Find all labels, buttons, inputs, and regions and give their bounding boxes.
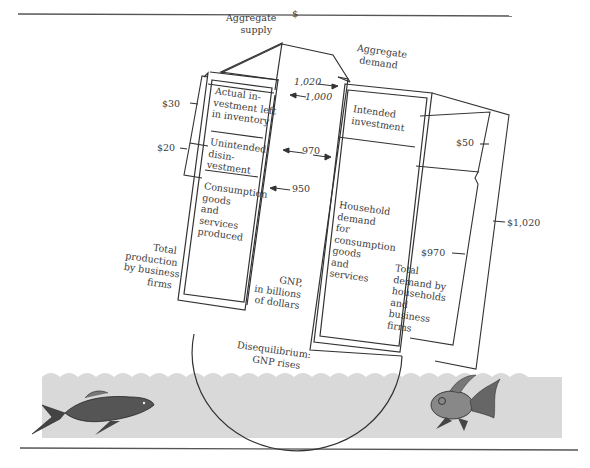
total-demand-label: Total demand by households and business … — [386, 262, 449, 338]
diagram-drawing — [0, 0, 590, 468]
gnp-disequilibrium-diagram: $ Aggregate supply Aggregate demand 1,02… — [0, 0, 590, 468]
bracket-50: $50 — [456, 137, 474, 149]
total-production-label: Total production by business firms — [122, 238, 178, 291]
bracket-1020: $1,020 — [507, 217, 540, 229]
marker-950: 950 — [292, 183, 310, 195]
left-brackets — [180, 76, 208, 178]
bracket-970: $970 — [421, 247, 445, 259]
aggregate-supply-label: Aggregate supply — [226, 12, 276, 35]
bracket-20: $20 — [157, 142, 175, 154]
demand-segment-household: Household demand for consumption goods a… — [329, 199, 402, 287]
bracket-30: $30 — [162, 98, 180, 110]
bottom-rule — [20, 448, 578, 450]
marker-1000: 1,000 — [305, 91, 332, 103]
marker-1020: 1,020 — [294, 76, 321, 88]
supply-segment-consumption: Consumption goods and services produced — [197, 180, 268, 246]
gnp-axis-label: GNP, in billions of dollars — [247, 270, 303, 311]
dollar-symbol: $ — [292, 8, 298, 20]
marker-970: 970 — [302, 145, 320, 157]
